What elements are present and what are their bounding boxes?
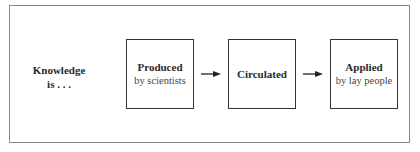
stage-subtitle: by scientists xyxy=(134,74,186,88)
stage-circulated: Circulated xyxy=(228,39,296,109)
arrow-right-icon xyxy=(303,70,323,78)
lead-label-line-2: is . . . xyxy=(30,77,88,91)
stage-produced: Produced by scientists xyxy=(126,39,194,109)
stage-applied: Applied by lay people xyxy=(330,39,398,109)
stage-title: Produced xyxy=(137,60,182,74)
lead-label: Knowledge is . . . xyxy=(30,63,88,91)
stage-title: Applied xyxy=(345,60,382,74)
stage-title: Circulated xyxy=(237,67,287,81)
stage-subtitle: by lay people xyxy=(336,74,393,88)
lead-label-line-1: Knowledge xyxy=(30,63,88,77)
arrow-right-icon xyxy=(201,70,221,78)
